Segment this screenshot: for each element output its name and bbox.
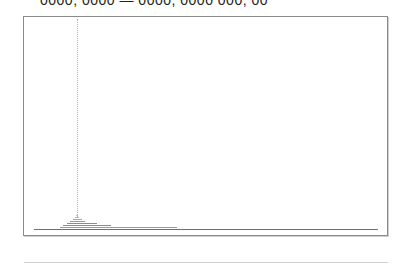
bar-level-2	[63, 225, 111, 226]
bar-level-4	[70, 221, 85, 222]
footer-separator	[24, 262, 388, 263]
bar-level-6	[75, 217, 79, 218]
bar-level-5	[73, 219, 82, 220]
vertical-marker-line	[77, 19, 78, 217]
bar-level-3	[67, 223, 97, 224]
plot-panel	[23, 16, 388, 236]
bar-level-7	[76, 215, 78, 216]
clipped-header-text: 0000, 0000 — 0000, 0000 000, 00	[40, 0, 390, 9]
bar-level-1	[60, 227, 177, 228]
plot-baseline	[34, 229, 378, 230]
